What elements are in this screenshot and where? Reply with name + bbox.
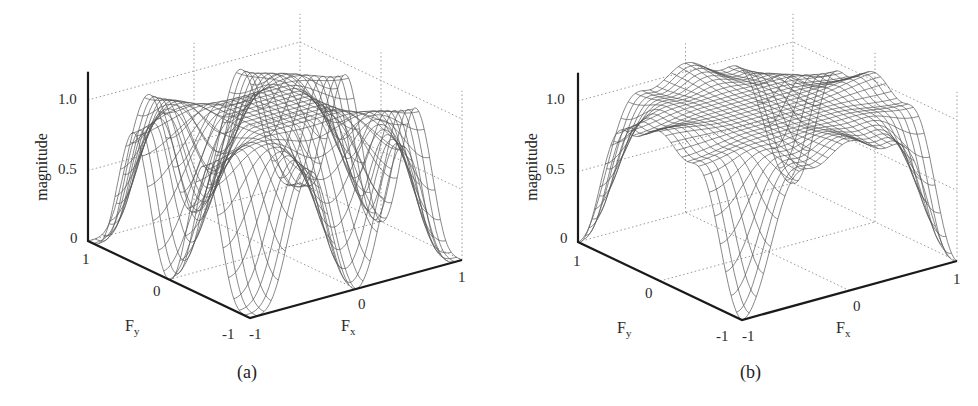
- ztick-a-1: 1.0: [58, 92, 77, 107]
- fytick-a-0: 0: [153, 284, 161, 299]
- fxtick-a-1: 1: [458, 270, 466, 285]
- surface-mesh-a: [88, 69, 462, 318]
- fytick-b-1: 1: [573, 254, 581, 269]
- zlabel-a: magnitude: [33, 133, 51, 201]
- axes-a: [88, 72, 462, 318]
- ztick-b-0: 0: [560, 231, 568, 246]
- fy-axis-label-a: Fy: [125, 318, 139, 334]
- surface-mesh-b: [578, 63, 957, 321]
- fytick-b-0: 0: [645, 286, 653, 301]
- zlabel-b: magnitude: [523, 133, 541, 201]
- caption-a: (a): [237, 362, 257, 383]
- fytick-a-m1: -1: [222, 327, 235, 342]
- ztick-b-1: 1.0: [546, 92, 565, 107]
- fxtick-b-m1: -1: [742, 329, 755, 344]
- figure-canvas: [0, 0, 978, 406]
- ztick-a-05: 0.5: [58, 162, 77, 177]
- fytick-b-m1: -1: [716, 329, 729, 344]
- fxtick-b-1: 1: [953, 272, 961, 287]
- ztick-b-05: 0.5: [546, 162, 565, 177]
- caption-b: (b): [740, 362, 761, 383]
- grid-lines-b: [578, 14, 957, 291]
- fx-axis-label-b: Fx: [836, 320, 850, 336]
- fxtick-a-0: 0: [358, 297, 366, 312]
- fxtick-b-0: 0: [853, 299, 861, 314]
- ztick-a-0: 0: [70, 231, 78, 246]
- grid-lines-a: [88, 14, 462, 289]
- fxtick-a-m1: -1: [249, 327, 262, 342]
- fx-axis-label-a: Fx: [341, 318, 355, 334]
- fytick-a-1: 1: [82, 252, 90, 267]
- fy-axis-label-b: Fy: [617, 320, 631, 336]
